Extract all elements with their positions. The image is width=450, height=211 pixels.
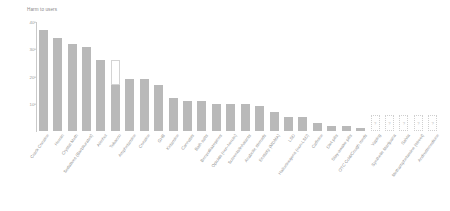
bar <box>298 117 307 131</box>
x-axis-label: Sedatives (Barbiturates) <box>62 133 94 174</box>
x-axis-label: Diet pills <box>325 133 339 149</box>
y-axis-tick-mark <box>34 76 36 77</box>
unknown-value-marker: ? <box>374 121 376 126</box>
bar <box>96 60 105 131</box>
bar <box>197 101 206 131</box>
bar <box>255 106 264 131</box>
x-axis-labels: Crack CocaineHeroinCrystal MethSedatives… <box>36 133 440 211</box>
bar <box>111 85 120 131</box>
unknown-value-marker: ? <box>388 121 390 126</box>
x-axis-label: OTC Cold/Cough meds <box>337 133 368 173</box>
bar <box>212 104 221 131</box>
y-axis-tick-mark <box>34 22 36 23</box>
x-axis-label: GHB <box>156 133 166 144</box>
x-axis-label: Vaping <box>370 133 382 147</box>
bar <box>169 98 178 131</box>
bar <box>39 30 48 131</box>
plot-area: 10203040????? <box>36 22 440 131</box>
chart-axis-title: Harm to users <box>27 7 57 12</box>
bar <box>82 47 91 131</box>
bar <box>313 123 322 131</box>
x-axis-label: Crack Cocaine <box>29 133 50 159</box>
bar <box>226 104 235 131</box>
x-axis-label: Salvia <box>400 133 411 146</box>
bar <box>342 126 351 131</box>
bar <box>327 126 336 131</box>
bar <box>241 104 250 131</box>
bar <box>68 44 77 131</box>
unknown-value-marker: ? <box>417 121 419 126</box>
bar <box>183 101 192 131</box>
bar <box>53 38 62 131</box>
unknown-value-marker: ? <box>403 121 405 126</box>
x-axis-label: Tobacco <box>109 133 123 149</box>
harm-to-users-bar-chart: Harm to users 10203040????? Crack Cocain… <box>0 0 450 211</box>
bar <box>356 128 365 131</box>
bar-extension-range <box>111 60 120 85</box>
x-axis-label: Heroin <box>53 133 65 146</box>
x-axis-label: LSD <box>286 133 295 143</box>
y-axis-tick-mark <box>34 103 36 104</box>
bar <box>140 79 149 131</box>
bar <box>154 85 163 131</box>
x-axis-label: Ketamine <box>165 133 180 151</box>
x-axis-label: Caffeine <box>311 133 325 149</box>
bar <box>125 79 134 131</box>
x-axis-label: Cocaine <box>138 133 152 149</box>
bar <box>270 112 279 131</box>
unknown-value-marker: ? <box>432 121 434 126</box>
y-axis-tick-mark <box>34 49 36 50</box>
x-axis-label: Alcohol <box>95 133 108 148</box>
bar <box>284 117 293 131</box>
